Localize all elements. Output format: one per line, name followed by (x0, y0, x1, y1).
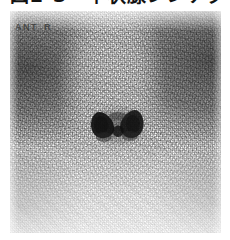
figure-container: 図2-3 甲状腺シンチグラフィ像（正常） (0, 0, 230, 240)
scintigram-image: ANTR (10, 11, 221, 233)
figure-caption: 図2-3 甲状腺シンチグラフィ像（正常） (10, 0, 230, 5)
figure-caption-strip: 図2-3 甲状腺シンチグラフィ像（正常） (0, 0, 230, 9)
edge-vignette (10, 11, 221, 233)
